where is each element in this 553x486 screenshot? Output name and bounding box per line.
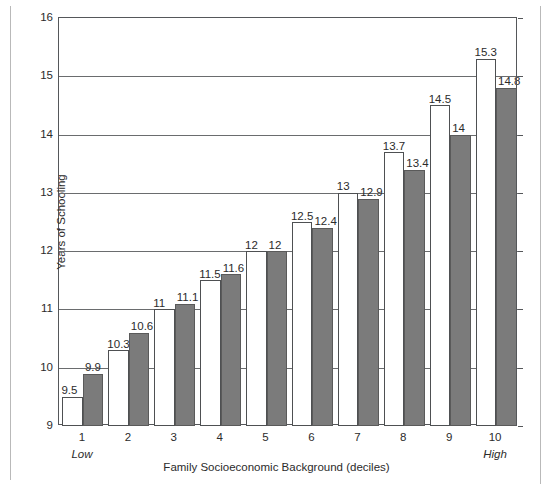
bar-group: 15.314.8 <box>476 18 517 426</box>
x-tick-label: 6 <box>308 432 314 444</box>
bar-group: 1312.9 <box>338 18 379 426</box>
y-tick-label: 14 <box>40 129 53 141</box>
bar-value-label: 9.5 <box>61 385 77 397</box>
x-tick-label: 2 <box>125 432 131 444</box>
bar-value-label: 15.3 <box>475 47 497 59</box>
bar[interactable]: 14.8 <box>496 88 517 426</box>
bar-group: 14.514 <box>430 18 471 426</box>
bar[interactable]: 12.9 <box>358 199 379 426</box>
bar-value-label: 14 <box>452 123 465 135</box>
bar-value-label: 10.6 <box>131 321 153 333</box>
bar[interactable]: 11.6 <box>221 274 242 426</box>
y-tick-label: 13 <box>40 187 53 199</box>
x-tick-label: 3 <box>171 432 177 444</box>
y-tick-mark <box>518 368 523 369</box>
bar-group: 12.512.4 <box>292 18 333 426</box>
bar[interactable]: 13 <box>338 193 359 426</box>
bar-value-label: 12.9 <box>360 187 382 199</box>
bar-value-label: 12.4 <box>314 216 336 228</box>
bar[interactable]: 9.9 <box>83 374 104 426</box>
bar-value-label: 13.4 <box>406 158 428 170</box>
bar-value-label: 14.5 <box>429 94 451 106</box>
x-axis-anchor-high: High <box>483 449 507 461</box>
bar-value-label: 11.1 <box>177 292 199 304</box>
bar[interactable]: 13.7 <box>384 152 405 426</box>
y-tick-mark <box>518 18 523 19</box>
y-tick-label: 11 <box>41 304 53 316</box>
bar-value-label: 13 <box>337 181 350 193</box>
x-tick-label: 7 <box>354 432 360 444</box>
bar-group: 1212 <box>246 18 287 426</box>
y-tick-mark <box>518 426 523 427</box>
x-axis-anchor-low: Low <box>71 449 92 461</box>
bar[interactable]: 14.5 <box>430 105 451 426</box>
bar[interactable]: 11.1 <box>175 304 196 426</box>
x-tick-label: 4 <box>216 432 222 444</box>
y-tick-mark <box>518 251 523 252</box>
bar-value-label: 11.5 <box>199 269 221 281</box>
bar[interactable]: 11.5 <box>200 280 221 426</box>
bar-chart-figure: Years of Schooling 910111213141516 9.59.… <box>0 0 553 486</box>
bar[interactable]: 12.4 <box>312 228 333 426</box>
bar-value-label: 12 <box>245 240 258 252</box>
bar-value-label: 10.3 <box>107 339 129 351</box>
bar-value-label: 9.9 <box>85 362 101 374</box>
bar-group: 13.713.4 <box>384 18 425 426</box>
x-tick-label: 10 <box>489 432 502 444</box>
y-tick-mark <box>518 135 523 136</box>
bar-group: 9.59.9 <box>62 18 103 426</box>
y-tick-label: 16 <box>40 12 53 24</box>
bar-value-label: 13.7 <box>383 141 405 153</box>
bar-value-label: 11 <box>153 298 165 310</box>
bar[interactable]: 11 <box>154 309 175 426</box>
bar-value-label: 12.5 <box>291 211 313 223</box>
bar-value-label: 14.8 <box>498 76 520 88</box>
bar-group: 10.310.6 <box>108 18 149 426</box>
bar-group: 11.511.6 <box>200 18 241 426</box>
bar-value-label: 11.6 <box>223 263 245 275</box>
bar[interactable]: 12 <box>246 251 267 426</box>
bar-value-label: 12 <box>269 240 282 252</box>
bar[interactable]: 15.3 <box>476 59 497 426</box>
y-tick-label: 10 <box>40 362 53 374</box>
y-axis-right-line <box>516 17 517 426</box>
bar[interactable]: 14 <box>450 135 471 426</box>
y-tick-label: 9 <box>47 420 53 432</box>
bar[interactable]: 10.3 <box>108 350 129 426</box>
y-tick-mark <box>518 309 523 310</box>
x-tick-label: 8 <box>400 432 406 444</box>
bar[interactable]: 10.6 <box>129 333 150 426</box>
bar[interactable]: 12 <box>267 251 288 426</box>
x-tick-label: 1 <box>79 432 85 444</box>
x-axis-title: Family Socioeconomic Background (deciles… <box>0 461 553 473</box>
x-axis-ticks: 12345678910LowHigh <box>58 425 517 485</box>
y-tick-label: 15 <box>40 71 53 83</box>
y-tick-label: 12 <box>40 245 53 257</box>
plot-area: Years of Schooling 910111213141516 9.59.… <box>58 17 517 425</box>
x-tick-label: 5 <box>262 432 268 444</box>
x-tick-label: 9 <box>446 432 452 444</box>
y-tick-mark <box>518 193 523 194</box>
bar[interactable]: 12.5 <box>292 222 313 426</box>
bars-layer: 9.59.910.310.61111.111.511.6121212.512.4… <box>59 18 518 426</box>
bar-group: 1111.1 <box>154 18 195 426</box>
bar[interactable]: 13.4 <box>404 170 425 426</box>
bar[interactable]: 9.5 <box>62 397 83 426</box>
